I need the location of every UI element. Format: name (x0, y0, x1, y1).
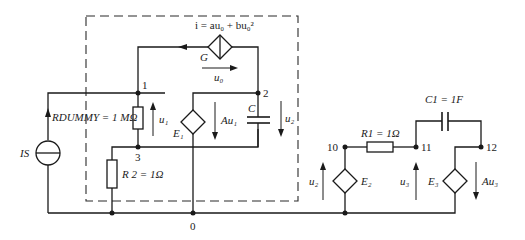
au3-arrow-icon (473, 162, 479, 200)
u0-label: u₀ (214, 71, 224, 83)
g-equation-label: i = au₀ + bu₀² (195, 19, 255, 31)
current-arrow-icon (178, 44, 187, 50)
u3-label: u₃ (400, 175, 410, 187)
rdummy-label: RDUMMY = 1 MΩ (51, 111, 137, 123)
u2-right-label: u₂ (309, 175, 319, 187)
u3-arrow-icon (413, 162, 419, 200)
subcircuit-boundary (86, 16, 298, 201)
u2-left-arrow-icon (278, 101, 284, 137)
node-112-junction (110, 211, 115, 216)
au1-arrow-icon (212, 102, 218, 140)
r1-resistor (367, 142, 393, 152)
node-0 (191, 211, 196, 216)
r2-resistor (107, 160, 117, 188)
c-label: C (248, 102, 256, 114)
g-source (208, 35, 232, 59)
e3-label: E₃ (427, 175, 439, 187)
is-arrow-icon (45, 108, 51, 117)
ground-wire (48, 193, 455, 213)
u2-right-arrow-icon (320, 162, 326, 200)
g-name-label: G (200, 51, 208, 63)
c1-label: C1 = 1F (425, 93, 463, 105)
e3-source (443, 169, 467, 193)
node-10-label: 10 (327, 141, 339, 153)
au1-label: Au₁ (220, 114, 237, 126)
au3-label: Au₃ (481, 175, 498, 187)
e1-label: E₁ (172, 127, 184, 139)
u2-left-label: u₂ (285, 112, 295, 124)
u1-arrow-icon (150, 102, 156, 136)
e1-source (181, 110, 205, 134)
r1-label: R1 = 1Ω (360, 127, 400, 139)
u1-label: u₁ (159, 113, 169, 125)
node-12-label: 12 (486, 141, 497, 153)
is-label: IS (19, 147, 30, 159)
c1-capacitor (442, 112, 448, 131)
node-11-label: 11 (421, 141, 432, 153)
circuit-diagram: i = au₀ + bu₀² G u₀ 1 RDUMMY = 1 MΩ u₁ 3… (0, 0, 525, 240)
r2-label: R 2 = 1Ω (121, 168, 163, 180)
c-capacitor (247, 117, 270, 123)
node-0-label: 0 (190, 220, 196, 232)
node-2-label: 2 (263, 87, 269, 99)
node-3-label: 3 (135, 151, 141, 163)
wire-node3 (112, 129, 258, 160)
node-1-label: 1 (142, 79, 148, 91)
e2-label: E₂ (360, 175, 372, 187)
e2-source (333, 169, 357, 193)
g-loop (138, 44, 258, 93)
